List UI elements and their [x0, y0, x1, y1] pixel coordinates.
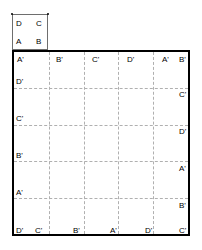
unit-square-label-top-right: C: [36, 19, 42, 28]
gridline-horizontal-3: [14, 161, 188, 162]
unit-square-corner-dot-top-left: [11, 13, 13, 15]
grid-rectangle: [12, 50, 190, 236]
unit-square-label-bottom-left: A: [16, 37, 21, 46]
gridline-horizontal-1: [14, 88, 188, 89]
grid-lines: [14, 52, 188, 234]
unit-square-label-bottom-right: B: [36, 37, 41, 46]
gridline-vertical-1: [49, 52, 50, 234]
gridline-vertical-4: [153, 52, 154, 234]
unit-square-label-top-left: D: [16, 19, 22, 28]
gridline-horizontal-2: [14, 125, 188, 126]
gridline-vertical-2: [84, 52, 85, 234]
gridline-vertical-3: [118, 52, 119, 234]
unit-square-corner-dot-top-right: [47, 13, 49, 15]
geometry-diagram: D C A B A'B'C'D'A'B'D'C'B'A'C'D'A'B'D'C'…: [0, 0, 202, 250]
gridline-horizontal-4: [14, 198, 188, 199]
